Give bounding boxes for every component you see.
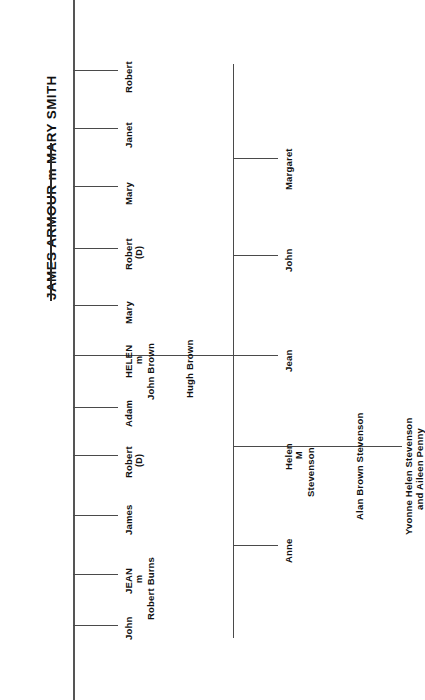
spouse-robert-burns: Robert Burns	[145, 557, 156, 620]
person-helen: HELEN	[123, 345, 134, 378]
branch-tick-jean	[73, 574, 118, 575]
branch-tick-john	[73, 625, 118, 626]
family-tree-chart: JAMES ARMOUR m MARY SMITH John JEAN m Ro…	[0, 0, 425, 700]
person-robert-d-2: Robert	[123, 238, 134, 270]
marriage-symbol-jean: m	[134, 575, 145, 583]
page-title: JAMES ARMOUR m MARY SMITH	[44, 75, 62, 300]
person-robert-d-1-note: (D)	[134, 454, 145, 467]
branch-tick-mary-1	[73, 305, 118, 306]
person-robert-d-2-note: (D)	[134, 246, 145, 259]
person-aileen-penny: and Aileen Penny	[414, 428, 425, 510]
main-spine	[73, 0, 75, 700]
branch-tick-jean-2	[233, 355, 278, 356]
branch-tick-janet	[73, 128, 118, 129]
person-janet: Janet	[123, 122, 134, 148]
branch-tick-margaret	[233, 158, 278, 159]
branch-tick-anne	[233, 545, 278, 546]
spouse-john-brown: John Brown	[145, 343, 156, 400]
title-underline	[50, 143, 52, 301]
marriage-symbol-helen-2: M	[294, 451, 305, 459]
marriage-symbol-helen: m	[134, 356, 145, 364]
spouse-stevenson: Stevenson	[305, 447, 316, 497]
person-john-2: John	[283, 249, 294, 273]
branch-tick-james	[73, 515, 118, 516]
person-helen-2: Helen	[283, 443, 294, 470]
person-yvonne-helen-stevenson: Yvonne Helen Stevenson	[403, 418, 414, 535]
person-mary-2: Mary	[123, 182, 134, 205]
person-robert-d-1: Robert	[123, 446, 134, 478]
person-anne: Anne	[283, 538, 294, 563]
person-mary-1: Mary	[123, 301, 134, 324]
person-adam: Adam	[123, 400, 134, 427]
second-spine	[233, 64, 234, 638]
branch-tick-john-2	[233, 255, 278, 256]
person-hugh-brown: Hugh Brown	[184, 340, 195, 398]
person-alan-brown-stevenson: Alan Brown Stevenson	[354, 413, 365, 520]
branch-tick-mary-2	[73, 186, 118, 187]
branch-tick-helen-stevenson	[233, 446, 358, 447]
person-john-1: John	[123, 617, 134, 641]
person-jean: JEAN	[123, 568, 134, 594]
branch-tick-robert-d-1	[73, 455, 118, 456]
branch-tick-adam	[73, 407, 118, 408]
person-james: James	[123, 504, 134, 535]
person-robert-3: Robert	[123, 61, 134, 93]
person-jean-2: Jean	[283, 350, 294, 372]
person-margaret: Margaret	[283, 148, 294, 190]
branch-tick-robert-d-2	[73, 248, 118, 249]
branch-tick-robert-3	[73, 70, 118, 71]
